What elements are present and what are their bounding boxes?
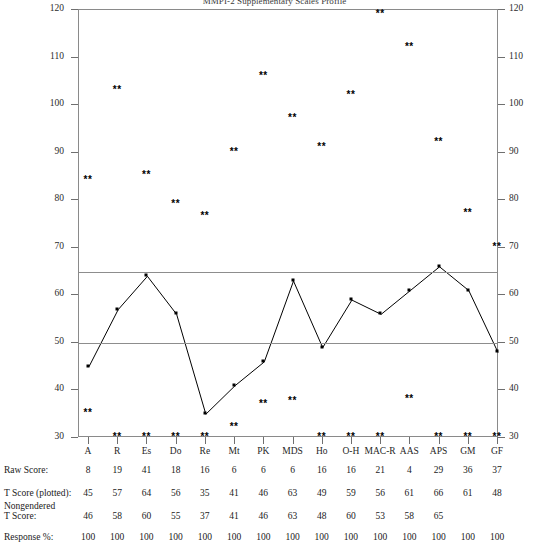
y-axis-label-left-30: 30 — [30, 431, 64, 441]
y-tick-mark-right-40 — [498, 389, 505, 390]
reference-line-t50 — [79, 343, 497, 344]
plot-area — [78, 9, 498, 437]
upper-marker-GF: ** — [493, 244, 502, 250]
cell-t-score-Re: 35 — [200, 488, 210, 498]
cell-raw-score-Mt: 6 — [232, 465, 237, 475]
cell-raw-score-APS: 29 — [434, 465, 444, 475]
cell-raw-score-Es: 41 — [142, 465, 152, 475]
cell-nongendered-t-score-O-H: 60 — [346, 511, 356, 521]
upper-marker-Mt: ** — [230, 149, 239, 155]
y-tick-mark-left-70 — [71, 247, 78, 248]
cell-response-pct-Ho: 100 — [315, 532, 329, 542]
y-axis-label-left-110: 110 — [30, 51, 64, 61]
cell-t-score-Mt: 41 — [229, 488, 239, 498]
cell-nongendered-t-score-AAS: 58 — [405, 511, 415, 521]
lower-marker-Re: ** — [200, 434, 209, 440]
data-point-Re — [203, 412, 206, 415]
y-tick-mark-right-90 — [498, 152, 505, 153]
upper-marker-Ho: ** — [317, 144, 326, 150]
lower-marker-MAC-R: ** — [376, 434, 385, 440]
data-point-MDS — [291, 279, 294, 282]
y-axis-label-right-30: 30 — [509, 431, 543, 441]
data-point-PK — [262, 359, 265, 362]
y-axis-label-left-80: 80 — [30, 193, 64, 203]
cell-t-score-Ho: 49 — [317, 488, 327, 498]
y-axis-label-left-50: 50 — [30, 336, 64, 346]
upper-marker-R: ** — [113, 87, 122, 93]
y-axis-label-left-90: 90 — [30, 146, 64, 156]
cell-nongendered-t-score-A: 46 — [83, 511, 93, 521]
y-tick-mark-right-50 — [498, 342, 505, 343]
cell-nongendered-t-score-MAC-R: 53 — [375, 511, 385, 521]
lower-marker-MDS: ** — [288, 398, 297, 404]
mmpi-supplementary-scales-profile: MMPI-2 Supplementary Scales Profile 3030… — [0, 0, 549, 549]
cell-response-pct-APS: 100 — [431, 532, 445, 542]
cell-t-score-PK: 46 — [259, 488, 269, 498]
cell-raw-score-Do: 18 — [171, 465, 181, 475]
y-tick-mark-left-60 — [71, 294, 78, 295]
lower-marker-Do: ** — [171, 434, 180, 440]
data-point-AAS — [408, 288, 411, 291]
profile-line-chart — [79, 10, 499, 438]
y-axis-label-right-70: 70 — [509, 241, 543, 251]
data-point-O-H — [349, 298, 352, 301]
y-axis-label-right-120: 120 — [509, 3, 543, 13]
cell-raw-score-R: 19 — [112, 465, 122, 475]
score-table: Raw Score: T Score (plotted): Nongendere… — [0, 443, 549, 549]
upper-marker-Es: ** — [142, 172, 151, 178]
lower-marker-Es: ** — [142, 434, 151, 440]
cell-t-score-Do: 56 — [171, 488, 181, 498]
cell-response-pct-PK: 100 — [256, 532, 270, 542]
y-axis-label-right-80: 80 — [509, 193, 543, 203]
cell-raw-score-A: 8 — [86, 465, 91, 475]
cell-raw-score-AAS: 4 — [407, 465, 412, 475]
lower-marker-O-H: ** — [347, 434, 356, 440]
lower-marker-Ho: ** — [317, 434, 326, 440]
cell-raw-score-Re: 16 — [200, 465, 210, 475]
cell-response-pct-O-H: 100 — [344, 532, 358, 542]
cell-raw-score-Ho: 16 — [317, 465, 327, 475]
cell-raw-score-GM: 36 — [463, 465, 473, 475]
cell-response-pct-Es: 100 — [139, 532, 153, 542]
cell-response-pct-GM: 100 — [461, 532, 475, 542]
lower-marker-Mt: ** — [230, 424, 239, 430]
cell-response-pct-Re: 100 — [198, 532, 212, 542]
cell-nongendered-t-score-APS: 65 — [434, 511, 444, 521]
lower-marker-AAS: ** — [405, 396, 414, 402]
cell-nongendered-t-score-MDS: 63 — [288, 511, 298, 521]
upper-marker-PK: ** — [259, 73, 268, 79]
cell-nongendered-t-score-R: 58 — [112, 511, 122, 521]
page-title: MMPI-2 Supplementary Scales Profile — [0, 0, 549, 6]
y-axis-label-right-40: 40 — [509, 383, 543, 393]
y-tick-mark-left-40 — [71, 389, 78, 390]
upper-marker-MDS: ** — [288, 115, 297, 121]
y-axis-label-right-100: 100 — [509, 98, 543, 108]
upper-marker-MAC-R: ** — [376, 11, 385, 17]
cell-raw-score-MAC-R: 21 — [375, 465, 385, 475]
y-tick-mark-left-30 — [71, 437, 78, 438]
data-point-GM — [466, 288, 469, 291]
y-axis-label-right-110: 110 — [509, 51, 543, 61]
cell-t-score-Es: 64 — [142, 488, 152, 498]
data-point-R — [116, 307, 119, 310]
data-point-APS — [437, 264, 440, 267]
y-tick-mark-right-80 — [498, 199, 505, 200]
cell-t-score-A: 45 — [83, 488, 93, 498]
lower-marker-PK: ** — [259, 401, 268, 407]
cell-t-score-GF: 48 — [492, 488, 502, 498]
y-tick-mark-right-100 — [498, 104, 505, 105]
cell-response-pct-Do: 100 — [169, 532, 183, 542]
y-axis-label-right-60: 60 — [509, 288, 543, 298]
y-axis-label-left-100: 100 — [30, 98, 64, 108]
y-axis-label-right-50: 50 — [509, 336, 543, 346]
row-label-nongendered-1: Nongendered — [4, 501, 55, 511]
data-point-Mt — [233, 383, 236, 386]
cell-nongendered-t-score-Re: 37 — [200, 511, 210, 521]
upper-marker-Re: ** — [200, 213, 209, 219]
lower-marker-A: ** — [84, 410, 93, 416]
cell-raw-score-O-H: 16 — [346, 465, 356, 475]
upper-marker-O-H: ** — [347, 92, 356, 98]
cell-t-score-APS: 66 — [434, 488, 444, 498]
data-point-MAC-R — [379, 312, 382, 315]
y-tick-mark-right-60 — [498, 294, 505, 295]
